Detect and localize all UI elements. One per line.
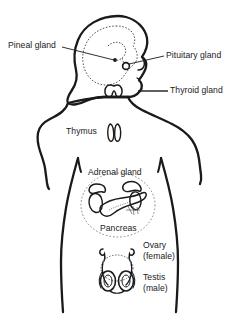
brain-fold-detail <box>108 42 126 60</box>
label-thyroid-gland: Thyroid gland <box>170 85 223 95</box>
armpit-left <box>78 158 81 172</box>
label-thymus: Thymus <box>66 126 97 136</box>
label-pineal-gland: Pineal gland <box>8 40 56 50</box>
brain-dotted-outline <box>83 26 138 85</box>
endocrine-system-figure: Pineal gland Pituitary gland Thyroid gla… <box>0 0 243 318</box>
adrenal-gland-left <box>89 184 105 193</box>
ovary-left <box>100 249 105 261</box>
label-pancreas: Pancreas <box>100 223 137 233</box>
label-ovary: Ovary (female) <box>143 240 175 261</box>
testis-left <box>101 271 116 291</box>
label-ovary-sub: (female) <box>143 251 175 262</box>
thyroid-gland-shape <box>105 85 122 97</box>
thymus-lobe-right <box>115 124 121 141</box>
nose-detail <box>138 57 144 70</box>
label-testis-main: Testis <box>143 272 168 283</box>
pineal-leader-line <box>62 47 114 60</box>
label-adrenal-gland: Adrenal gland <box>88 167 142 177</box>
pelvis-outline <box>102 262 132 285</box>
trunk-left-side <box>61 158 78 312</box>
adrenal-gland-right <box>123 182 141 192</box>
head-outline <box>67 16 147 104</box>
label-testis: Testis (male) <box>143 272 168 293</box>
pituitary-gland-marker <box>123 63 130 70</box>
label-testis-sub: (male) <box>143 283 168 294</box>
uterus-dotted-outline <box>101 255 133 281</box>
label-ovary-main: Ovary <box>143 240 175 251</box>
ovary-right <box>129 249 134 261</box>
armpit-right <box>158 158 161 172</box>
thymus-lobe-left <box>108 124 114 141</box>
vessel-hatching <box>126 206 140 215</box>
label-pituitary-gland: Pituitary gland <box>166 50 221 60</box>
